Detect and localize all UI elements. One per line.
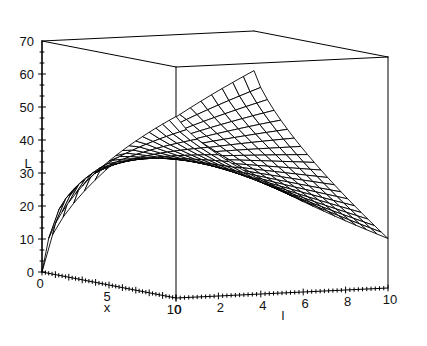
z-tick-label: 70 bbox=[20, 34, 34, 49]
l-tick-label: 0 bbox=[174, 302, 181, 317]
axis-label-l: l bbox=[282, 308, 285, 323]
l-tick-label: 6 bbox=[302, 296, 309, 311]
plot-canvas: 01020304050607005100246810Lxl bbox=[0, 0, 427, 346]
l-tick-label: 4 bbox=[259, 298, 266, 313]
axis-labels: 01020304050607005100246810Lxl bbox=[20, 34, 398, 323]
surface-plot-figure: 01020304050607005100246810Lxl bbox=[0, 0, 427, 346]
axis-label-x: x bbox=[104, 300, 111, 315]
z-tick-label: 10 bbox=[20, 232, 34, 247]
z-tick-label: 50 bbox=[20, 100, 34, 115]
l-tick-label: 8 bbox=[344, 294, 351, 309]
z-tick-label: 0 bbox=[27, 265, 34, 280]
z-tick-label: 40 bbox=[20, 133, 34, 148]
x-tick-label: 0 bbox=[36, 276, 43, 291]
z-tick-label: 60 bbox=[20, 67, 34, 82]
axis-label-L: L bbox=[24, 156, 31, 171]
z-tick-label: 20 bbox=[20, 199, 34, 214]
box-edge-top-back-right bbox=[254, 31, 388, 57]
box-edge-top-front-right bbox=[176, 57, 388, 67]
axes bbox=[39, 41, 389, 301]
box-edge-top-back-left bbox=[42, 31, 254, 41]
surface-wireframe bbox=[42, 71, 388, 272]
l-tick-label: 10 bbox=[383, 292, 397, 307]
l-tick-label: 2 bbox=[217, 300, 224, 315]
box-edge-top-front-left bbox=[42, 41, 176, 67]
